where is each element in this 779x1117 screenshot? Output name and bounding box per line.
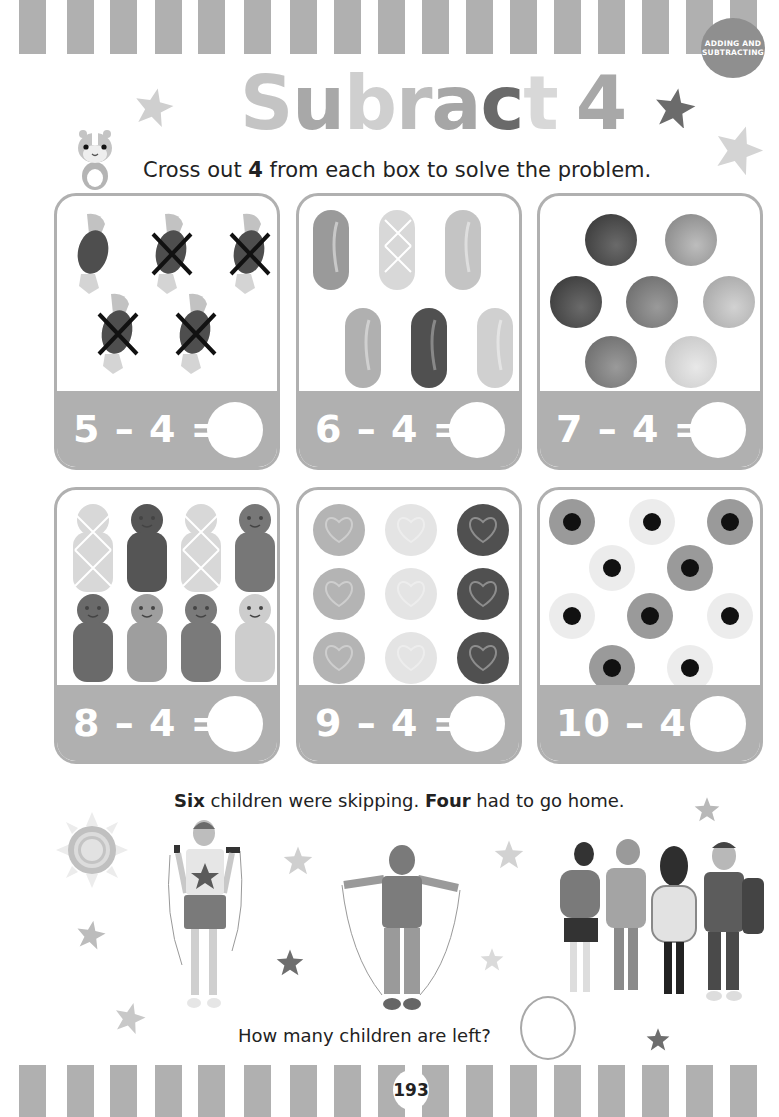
answer-circle[interactable]	[449, 696, 505, 752]
problem-box-4: 8 – 4 =	[54, 487, 280, 764]
love-heart-sweet[interactable]	[457, 568, 509, 620]
stripe	[244, 0, 271, 54]
candy-eye[interactable]	[589, 645, 635, 690]
wrapped-sweet-crossed[interactable]	[173, 292, 219, 380]
love-heart-sweet[interactable]	[313, 632, 365, 684]
jelly-babies-group	[57, 490, 280, 690]
chocolate-button[interactable]	[550, 276, 602, 328]
candy-eye[interactable]	[667, 545, 713, 591]
chocolate-button[interactable]	[585, 336, 637, 388]
love-heart-sweet[interactable]	[313, 568, 365, 620]
jelly-bean[interactable]	[477, 308, 513, 388]
wrapped-sweet-crossed[interactable]	[95, 292, 141, 380]
title-letter: a	[431, 60, 480, 146]
answer-circle[interactable]	[690, 402, 746, 458]
answer-circle[interactable]	[520, 996, 576, 1060]
wrapped-sweet-crossed[interactable]	[227, 212, 273, 300]
jelly-baby[interactable]	[235, 504, 275, 592]
stripe	[198, 1065, 225, 1117]
title-letter: r	[396, 60, 432, 146]
answer-circle[interactable]	[207, 402, 263, 458]
wrapped-sweet-crossed[interactable]	[149, 212, 195, 300]
stripe	[554, 0, 581, 54]
chocolate-buttons-group	[540, 196, 763, 396]
page-title: Subract 4	[240, 66, 626, 140]
candy-eye[interactable]	[629, 499, 675, 545]
equation-text: 7 – 4 =	[556, 407, 706, 451]
jelly-bean[interactable]	[411, 308, 447, 388]
answer-circle[interactable]	[690, 696, 746, 752]
jelly-bean[interactable]	[345, 308, 381, 388]
star-icon	[76, 918, 106, 950]
jelly-beans-group	[299, 196, 522, 396]
star-icon	[646, 1026, 670, 1052]
bottom-stripe-border	[0, 1065, 779, 1117]
candy-eye[interactable]	[707, 499, 753, 545]
girl-skipping-photo	[160, 815, 250, 1020]
equation-text: 5 – 4 =	[73, 407, 223, 451]
problem-box-6: 10 – 4 =	[537, 487, 763, 764]
wrapped-sweet[interactable]	[71, 212, 117, 300]
chocolate-button[interactable]	[665, 214, 717, 266]
candy-eye[interactable]	[627, 593, 673, 639]
candy-eye[interactable]	[549, 499, 595, 545]
love-heart-sweet[interactable]	[457, 632, 509, 684]
jelly-bean[interactable]	[379, 210, 415, 290]
instruction-post: from each box to solve the problem.	[263, 158, 651, 182]
hamster-mascot-icon	[73, 128, 117, 192]
star-icon	[283, 845, 313, 875]
title-letter: 4	[576, 60, 627, 146]
chocolate-button[interactable]	[665, 336, 717, 388]
star-icon	[114, 1000, 146, 1034]
stripe	[598, 0, 625, 54]
jelly-baby[interactable]	[127, 594, 167, 682]
love-heart-sweet[interactable]	[385, 568, 437, 620]
section-badge: ADDING AND SUBTRACTING	[701, 18, 765, 78]
jelly-baby[interactable]	[235, 594, 275, 682]
love-heart-sweet[interactable]	[457, 504, 509, 556]
answer-circle[interactable]	[207, 696, 263, 752]
sun-icon	[54, 810, 130, 890]
chocolate-button[interactable]	[585, 214, 637, 266]
stripe	[466, 1065, 493, 1117]
jelly-bean[interactable]	[313, 210, 349, 290]
love-hearts-group	[299, 490, 522, 690]
stripe	[334, 0, 361, 54]
stripe	[642, 1065, 669, 1117]
stripe	[686, 1065, 713, 1117]
star-icon	[276, 948, 304, 976]
candy-eye[interactable]	[589, 545, 635, 591]
stripe	[155, 1065, 182, 1117]
stripe	[554, 1065, 581, 1117]
section-badge-label: ADDING AND SUBTRACTING	[702, 39, 764, 58]
jelly-baby[interactable]	[73, 594, 113, 682]
problem-box-3: 7 – 4 =	[537, 193, 763, 470]
star-icon	[494, 838, 524, 870]
candy-eye[interactable]	[549, 593, 595, 639]
stripe	[198, 0, 225, 54]
instruction-text: Cross out 4 from each box to solve the p…	[143, 158, 651, 182]
jelly-baby[interactable]	[73, 504, 113, 592]
love-heart-sweet[interactable]	[385, 632, 437, 684]
love-heart-sweet[interactable]	[385, 504, 437, 556]
stripe	[110, 1065, 137, 1117]
jelly-bean[interactable]	[445, 210, 481, 290]
title-letter: c	[480, 60, 523, 146]
candy-eye[interactable]	[667, 645, 713, 690]
star-icon	[134, 84, 174, 128]
stripe	[642, 0, 669, 54]
story-text: Six children were skipping. Four had to …	[174, 790, 625, 811]
stripe	[290, 1065, 317, 1117]
title-letter: t	[523, 60, 557, 146]
chocolate-button[interactable]	[626, 276, 678, 328]
jelly-baby[interactable]	[181, 594, 221, 682]
stripe	[598, 1065, 625, 1117]
jelly-baby[interactable]	[127, 504, 167, 592]
chocolate-button[interactable]	[703, 276, 755, 328]
jelly-baby[interactable]	[181, 504, 221, 592]
candy-eye[interactable]	[707, 593, 753, 639]
love-heart-sweet[interactable]	[313, 504, 365, 556]
boy-skipping-photo	[336, 840, 466, 1015]
answer-circle[interactable]	[449, 402, 505, 458]
stripe	[110, 0, 137, 54]
